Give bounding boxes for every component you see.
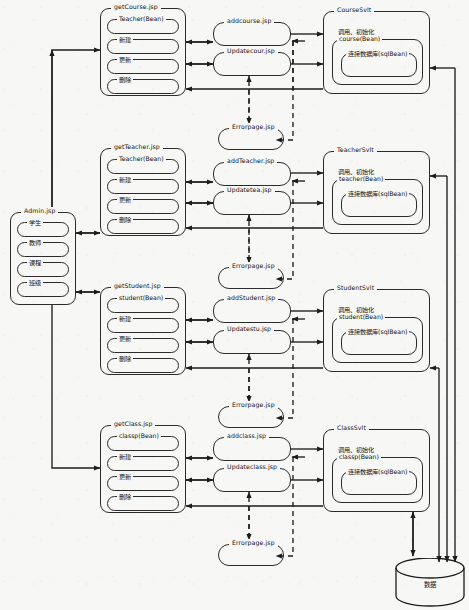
get-page-bean-pill-student: student(Bean) — [107, 298, 179, 313]
get-page-bean-label-teacher: Teacher(Bean) — [117, 155, 166, 162]
get-page-action-delete-class[interactable]: 删除 — [107, 496, 179, 511]
admin-item-course[interactable]: 课程 — [17, 262, 69, 277]
get-page-action-new-course[interactable]: 新建 — [107, 39, 179, 54]
servlet-box-teacher[interactable]: TeacherSvlt 调用、初始化 teacher(Bean) 连接数据库(s… — [323, 151, 430, 234]
servlet-db-label-teacher: 连接数据库(sqlBean) — [346, 189, 409, 198]
get-page-action-delete-teacher[interactable]: 删除 — [107, 219, 179, 234]
servlet-db-box-teacher: 连接数据库(sqlBean) — [341, 193, 417, 217]
get-page-box-teacher[interactable]: getTeacher.jsp Teacher(Bean) 新建 更新 删除 — [100, 148, 186, 236]
servlet-box-class[interactable]: ClassSvlt 调用、初始化 classp(Bean) 连接数据库(sqlB… — [323, 429, 430, 512]
get-page-title-teacher: getTeacher.jsp — [111, 143, 163, 150]
error-page-title-course: Errorpage.jsp — [229, 123, 278, 130]
admin-item-course-label: 课程 — [27, 258, 43, 267]
error-page-box-teacher[interactable]: Errorpage.jsp — [218, 267, 284, 289]
error-page-box-class[interactable]: Errorpage.jsp — [218, 544, 284, 566]
error-page-title-teacher: Errorpage.jsp — [229, 262, 278, 269]
action-label-new-course: 新建 — [117, 35, 133, 44]
get-page-action-new-student[interactable]: 新建 — [107, 318, 179, 333]
add-page-box-course[interactable]: addcourse.jsp — [213, 22, 291, 46]
admin-item-class-label: 班级 — [27, 278, 43, 287]
get-page-bean-label-course: Teacher(Bean) — [117, 15, 166, 22]
add-page-title-teacher: addTeacher.jsp — [224, 157, 277, 164]
add-page-title-course: addcourse.jsp — [224, 17, 274, 24]
get-page-box-student[interactable]: getStudent.jsp student(Bean) 新建 更新 删除 — [100, 287, 186, 375]
error-page-title-class: Errorpage.jsp — [229, 539, 278, 546]
add-page-title-class: addclass.jsp — [224, 432, 269, 439]
admin-item-teacher[interactable]: 教师 — [17, 242, 69, 257]
servlet-db-label-class: 连接数据库(sqlBean) — [346, 467, 409, 476]
servlet-bean-box-course: course(Bean) 连接数据库(sqlBean) — [332, 39, 423, 85]
update-page-title-student: Updatestu.jsp — [224, 325, 274, 332]
get-page-action-update-teacher[interactable]: 更新 — [107, 199, 179, 214]
update-page-box-class[interactable]: Updateclass.jsp — [213, 468, 291, 492]
action-label-update-course: 更新 — [117, 55, 133, 64]
get-page-bean-label-class: classp(Bean) — [117, 432, 161, 439]
database-label: 数据 — [394, 580, 466, 589]
get-page-box-class[interactable]: getClass.jsp classp(Bean) 新建 更新 删除 — [100, 425, 186, 513]
get-page-action-delete-course[interactable]: 删除 — [107, 79, 179, 94]
servlet-db-box-student: 连接数据库(sqlBean) — [341, 331, 417, 355]
error-page-title-student: Errorpage.jsp — [229, 401, 278, 408]
action-label-new-class: 新建 — [117, 452, 133, 461]
update-page-box-teacher[interactable]: Updatetea.jsp — [213, 191, 291, 215]
get-page-action-update-class[interactable]: 更新 — [107, 476, 179, 491]
action-label-delete-student: 删除 — [117, 354, 133, 363]
servlet-title-class: ClassSvlt — [334, 424, 369, 431]
update-page-title-teacher: Updatetea.jsp — [224, 186, 275, 193]
admin-page-title: Admin.jsp — [21, 207, 58, 214]
servlet-box-course[interactable]: CourseSvlt 调用、初始化 course(Bean) 连接数据库(sql… — [323, 11, 430, 94]
admin-item-student-label: 学生 — [27, 218, 43, 227]
action-label-update-teacher: 更新 — [117, 195, 133, 204]
get-page-bean-pill-teacher: Teacher(Bean) — [107, 159, 179, 174]
update-page-box-student[interactable]: Updatestu.jsp — [213, 330, 291, 354]
get-page-action-new-teacher[interactable]: 新建 — [107, 179, 179, 194]
action-label-new-teacher: 新建 — [117, 175, 133, 184]
servlet-bean-label-course: course(Bean) — [337, 35, 382, 42]
action-label-update-student: 更新 — [117, 334, 133, 343]
add-page-box-student[interactable]: addStudent.jsp — [213, 299, 291, 323]
admin-item-teacher-label: 教师 — [27, 238, 43, 247]
admin-item-student[interactable]: 学生 — [17, 222, 69, 237]
servlet-db-box-class: 连接数据库(sqlBean) — [341, 471, 417, 495]
servlet-bean-label-student: student(Bean) — [337, 313, 385, 320]
update-page-title-class: Updateclass.jsp — [224, 463, 280, 470]
error-page-box-student[interactable]: Errorpage.jsp — [218, 406, 284, 428]
servlet-box-student[interactable]: StudentSvlt 调用、初始化 student(Bean) 连接数据库(s… — [323, 289, 430, 372]
servlet-bean-label-teacher: teacher(Bean) — [337, 175, 385, 182]
action-label-new-student: 新建 — [117, 314, 133, 323]
servlet-db-label-student: 连接数据库(sqlBean) — [346, 327, 409, 336]
admin-item-class[interactable]: 班级 — [17, 282, 69, 297]
get-page-box-course[interactable]: getCourse.jsp Teacher(Bean) 新建 更新 删除 — [100, 8, 186, 96]
action-label-update-class: 更新 — [117, 472, 133, 481]
get-page-title-class: getClass.jsp — [111, 420, 155, 427]
add-page-box-class[interactable]: addclass.jsp — [213, 437, 291, 461]
update-page-box-course[interactable]: Updatecour.jsp — [213, 52, 291, 76]
get-page-bean-pill-course: Teacher(Bean) — [107, 19, 179, 34]
add-page-box-teacher[interactable]: addTeacher.jsp — [213, 162, 291, 186]
get-page-bean-pill-class: classp(Bean) — [107, 436, 179, 451]
update-page-title-course: Updatecour.jsp — [224, 47, 278, 54]
get-page-action-update-course[interactable]: 更新 — [107, 59, 179, 74]
servlet-bean-box-class: classp(Bean) 连接数据库(sqlBean) — [332, 457, 423, 503]
servlet-db-label-course: 连接数据库(sqlBean) — [346, 49, 409, 58]
action-label-delete-class: 删除 — [117, 492, 133, 501]
get-page-action-delete-student[interactable]: 删除 — [107, 358, 179, 373]
diagram-canvas: Admin.jsp 学生 教师 课程 班级 getCourse.jsp Teac… — [0, 0, 469, 610]
action-label-delete-teacher: 删除 — [117, 215, 133, 224]
servlet-bean-box-teacher: teacher(Bean) 连接数据库(sqlBean) — [332, 179, 423, 225]
get-page-action-new-class[interactable]: 新建 — [107, 456, 179, 471]
add-page-title-student: addStudent.jsp — [224, 294, 278, 301]
servlet-bean-box-student: student(Bean) 连接数据库(sqlBean) — [332, 317, 423, 363]
servlet-title-teacher: TeacherSvlt — [334, 146, 377, 153]
servlet-title-student: StudentSvlt — [334, 284, 377, 291]
error-page-box-course[interactable]: Errorpage.jsp — [218, 128, 284, 150]
servlet-bean-label-class: classp(Bean) — [337, 453, 381, 460]
servlet-title-course: CourseSvlt — [334, 6, 374, 13]
action-label-delete-course: 删除 — [117, 75, 133, 84]
get-page-action-update-student[interactable]: 更新 — [107, 338, 179, 353]
get-page-title-course: getCourse.jsp — [111, 3, 161, 10]
admin-page-box[interactable]: Admin.jsp 学生 教师 课程 班级 — [10, 212, 76, 305]
servlet-db-box-course: 连接数据库(sqlBean) — [341, 53, 417, 77]
get-page-title-student: getStudent.jsp — [111, 282, 164, 289]
get-page-bean-label-student: student(Bean) — [117, 294, 165, 301]
